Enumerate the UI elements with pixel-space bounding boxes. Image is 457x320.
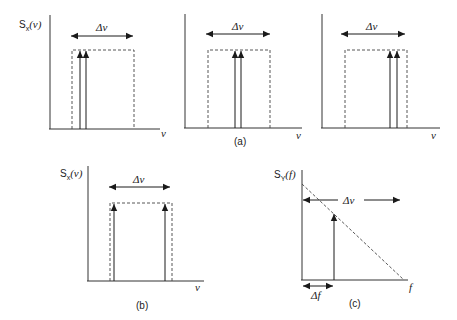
dashed-band — [208, 50, 270, 128]
spectrum-diagram: Sx(ν) Δν ν Δν ν (a) Δν ν Sx(ν) Δν — [0, 0, 457, 320]
x-axis-label: ν — [431, 129, 436, 141]
panel-a2: Δν ν (a) — [184, 14, 302, 147]
y-axis-label: SY(f) — [274, 168, 296, 182]
x-axis-label: ν — [296, 129, 301, 141]
x-axis-label: ν — [161, 127, 166, 139]
panel-a1: Sx(ν) Δν ν — [19, 15, 166, 139]
caption-a: (a) — [234, 136, 246, 147]
y-axis-label: Sx(ν) — [19, 18, 42, 32]
dashed-band — [345, 50, 407, 128]
bandwidth-label: Δν — [231, 20, 243, 32]
panel-a3: Δν ν — [321, 14, 440, 141]
caption-b: (b) — [136, 300, 148, 311]
bandwidth-label: Δν — [365, 20, 377, 32]
bandwidth-label: Δν — [132, 173, 144, 185]
dashed-band — [72, 50, 134, 129]
panel-b: Sx(ν) Δν ν (b) — [60, 166, 204, 311]
panel-c: SY(f) Δν Δf f (c) — [274, 168, 414, 309]
caption-c: (c) — [349, 298, 361, 309]
bandwidth-label: Δν — [95, 21, 107, 33]
x-axis-label: f — [409, 281, 414, 293]
x-axis-label: ν — [195, 281, 200, 293]
beat-frequency-label: Δf — [310, 289, 322, 301]
bandwidth-label: Δν — [342, 194, 354, 206]
dashed-band — [110, 203, 172, 281]
y-axis-label: Sx(ν) — [60, 167, 83, 181]
